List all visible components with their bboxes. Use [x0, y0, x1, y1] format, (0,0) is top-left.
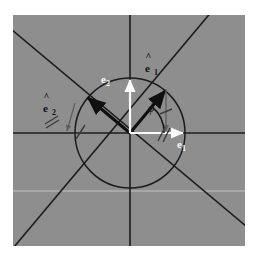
label-e1: e1	[177, 135, 186, 153]
label-e1-hat: ^ e 1	[145, 59, 158, 77]
label-e1-sub: 1	[182, 144, 186, 153]
label-e2-sub: 2	[106, 79, 110, 88]
label-e2-hat-base: e	[43, 102, 48, 114]
label-phi: ϕ	[148, 101, 154, 116]
hash-double-phi	[158, 127, 170, 142]
label-e2-hat-sub: 2	[52, 108, 56, 117]
hash-double-e2hat	[45, 116, 59, 128]
label-e2: e2	[101, 70, 110, 88]
hat-accent-e2: ^	[44, 92, 50, 102]
label-e1-hat-base: e	[145, 62, 150, 74]
label-e1-hat-sub: 1	[154, 68, 158, 77]
label-e2-hat: ^ e 2	[43, 99, 56, 117]
projection-arrow-diagonal	[67, 103, 75, 131]
diagram-page: ^ e 1 ^ e 2 e1 e2 ϕ	[0, 0, 256, 262]
diagram-panel: ^ e 1 ^ e 2 e1 e2 ϕ	[13, 15, 245, 246]
hat-accent-e1: ^	[146, 52, 152, 62]
tick-mark-single-left	[76, 125, 85, 139]
vector-diagram-svg	[13, 15, 245, 246]
